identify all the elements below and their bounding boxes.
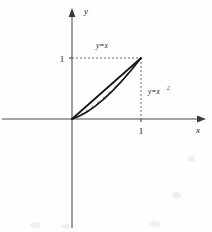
y-axis-tick-label-1: 1 [60,54,65,64]
label-curve-y-equals-x-squared: y=x 2 [147,85,170,97]
x-axis-label: x [195,125,200,135]
line-y-equals-x [72,58,141,119]
coordinate-plot: y x 1 1 y=x y=x 2 [0,0,212,232]
x-axis-tick-label-1: 1 [139,126,144,136]
curves-group [72,58,141,119]
label-line-y-equals-x: y=x [95,41,108,50]
x-axis-arrowhead [197,116,206,123]
figure-container: y x 1 1 y=x y=x 2 [0,0,212,232]
label-parabola-base: y=x [147,87,160,96]
y-axis-arrowhead [69,8,76,17]
label-parabola-exponent: 2 [167,85,170,91]
y-axis-label: y [83,6,88,16]
